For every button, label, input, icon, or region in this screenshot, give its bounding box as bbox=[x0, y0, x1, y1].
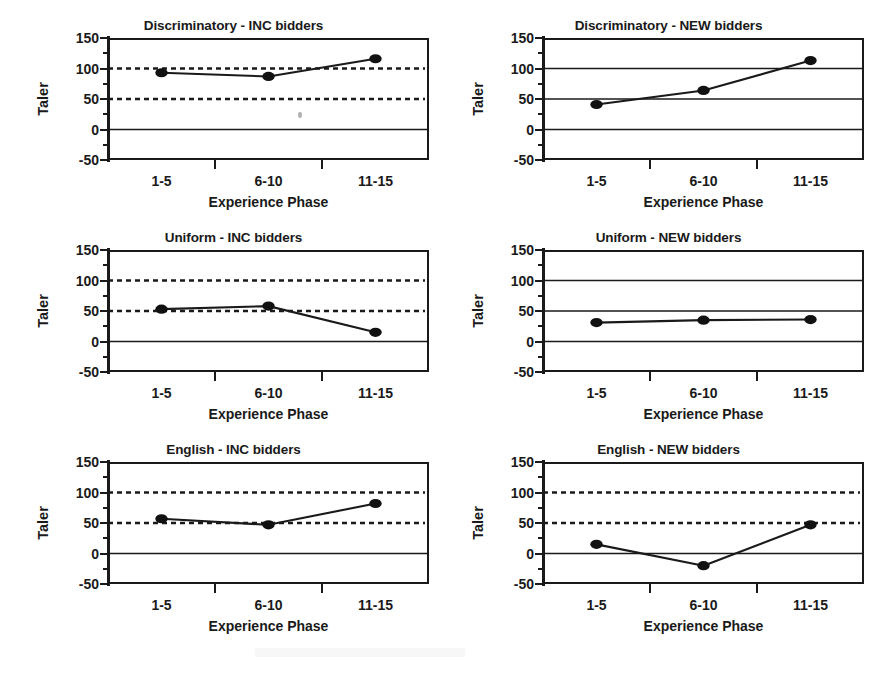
y-tick-mark bbox=[535, 98, 543, 100]
y-axis-label: Taler bbox=[470, 82, 486, 116]
x-tick-label: 6-10 bbox=[254, 173, 282, 189]
y-minor-tick-mark bbox=[103, 144, 108, 146]
chart-panel: Uniform - INC bidders150100500-50Taler1-… bbox=[16, 228, 451, 446]
y-minor-tick-mark bbox=[103, 52, 108, 54]
y-tick-label: 0 bbox=[526, 334, 534, 350]
y-tick-label: 50 bbox=[518, 91, 534, 107]
y-tick-label: 50 bbox=[83, 515, 99, 531]
x-tick-mark bbox=[214, 160, 216, 169]
y-tick-mark bbox=[100, 98, 108, 100]
y-minor-tick-mark bbox=[103, 507, 108, 509]
x-tick-mark bbox=[321, 160, 323, 169]
y-tick-mark bbox=[535, 280, 543, 282]
x-tick-mark bbox=[649, 160, 651, 169]
y-tick-label: 150 bbox=[76, 454, 99, 470]
x-tick-label: 1-5 bbox=[586, 597, 606, 613]
y-tick-mark bbox=[100, 310, 108, 312]
y-tick-label: 150 bbox=[76, 242, 99, 258]
y-axis-label: Taler bbox=[470, 506, 486, 540]
y-tick-label: 50 bbox=[518, 515, 534, 531]
plot-area: 150100500-50Taler1-56-1011-15Experience … bbox=[108, 38, 429, 160]
plot-area: 150100500-50Taler1-56-1011-15Experience … bbox=[543, 38, 864, 160]
y-minor-tick-mark bbox=[103, 325, 108, 327]
y-tick-mark bbox=[100, 159, 108, 161]
y-minor-tick-mark bbox=[538, 568, 543, 570]
y-tick-label: 0 bbox=[91, 334, 99, 350]
y-minor-tick-mark bbox=[103, 264, 108, 266]
y-tick-label: 150 bbox=[76, 30, 99, 46]
plot-canvas bbox=[543, 250, 864, 372]
x-tick-label: 1-5 bbox=[151, 173, 171, 189]
x-axis-label: Experience Phase bbox=[108, 194, 429, 210]
y-minor-tick-mark bbox=[103, 476, 108, 478]
plot-canvas bbox=[108, 462, 429, 584]
scan-speck bbox=[298, 112, 302, 118]
series-line bbox=[597, 525, 811, 566]
x-tick-label: 11-15 bbox=[793, 385, 828, 401]
y-tick-mark bbox=[100, 461, 108, 463]
y-tick-label: -50 bbox=[514, 364, 534, 380]
y-tick-mark bbox=[100, 522, 108, 524]
x-tick-label: 11-15 bbox=[793, 173, 828, 189]
data-point bbox=[804, 520, 816, 529]
y-minor-tick-mark bbox=[103, 356, 108, 358]
y-tick-label: -50 bbox=[79, 152, 99, 168]
data-point bbox=[262, 72, 274, 81]
y-tick-mark bbox=[535, 310, 543, 312]
data-point bbox=[804, 56, 816, 65]
y-tick-label: 100 bbox=[76, 273, 99, 289]
x-tick-mark bbox=[756, 584, 758, 593]
chart-panel: English - INC bidders150100500-50Taler1-… bbox=[16, 440, 451, 658]
x-tick-label: 11-15 bbox=[358, 173, 393, 189]
x-tick-label: 11-15 bbox=[793, 597, 828, 613]
x-axis-label: Experience Phase bbox=[543, 618, 864, 634]
x-axis-label: Experience Phase bbox=[543, 194, 864, 210]
y-tick-label: 0 bbox=[91, 122, 99, 138]
y-minor-tick-mark bbox=[103, 568, 108, 570]
plot-area: 150100500-50Taler1-56-1011-15Experience … bbox=[108, 250, 429, 372]
plot-area: 150100500-50Taler1-56-1011-15Experience … bbox=[543, 462, 864, 584]
x-tick-mark bbox=[214, 372, 216, 381]
y-tick-label: 100 bbox=[511, 61, 534, 77]
y-tick-label: -50 bbox=[79, 576, 99, 592]
data-point bbox=[369, 54, 381, 63]
y-minor-tick-mark bbox=[538, 52, 543, 54]
series-line bbox=[597, 61, 811, 105]
y-minor-tick-mark bbox=[538, 144, 543, 146]
y-minor-tick-mark bbox=[538, 295, 543, 297]
data-point bbox=[155, 68, 167, 77]
y-tick-mark bbox=[100, 280, 108, 282]
x-tick-label: 11-15 bbox=[358, 597, 393, 613]
y-axis-label: Taler bbox=[35, 82, 51, 116]
data-point bbox=[590, 100, 602, 109]
y-tick-mark bbox=[535, 129, 543, 131]
y-tick-mark bbox=[100, 68, 108, 70]
y-tick-mark bbox=[535, 68, 543, 70]
x-tick-label: 1-5 bbox=[151, 597, 171, 613]
y-tick-mark bbox=[535, 522, 543, 524]
y-minor-tick-mark bbox=[103, 113, 108, 115]
x-tick-mark bbox=[321, 372, 323, 381]
data-point bbox=[369, 499, 381, 508]
y-minor-tick-mark bbox=[103, 83, 108, 85]
data-point bbox=[697, 86, 709, 95]
x-tick-label: 6-10 bbox=[689, 597, 717, 613]
y-minor-tick-mark bbox=[538, 264, 543, 266]
x-tick-label: 6-10 bbox=[689, 173, 717, 189]
y-minor-tick-mark bbox=[538, 113, 543, 115]
plot-canvas bbox=[543, 462, 864, 584]
y-minor-tick-mark bbox=[103, 295, 108, 297]
y-axis-label: Taler bbox=[35, 294, 51, 328]
data-point bbox=[155, 305, 167, 314]
x-tick-mark bbox=[756, 372, 758, 381]
figure-panel-grid: Discriminatory - INC bidders150100500-50… bbox=[0, 0, 870, 673]
x-tick-label: 11-15 bbox=[358, 385, 393, 401]
chart-panel: Uniform - NEW bidders150100500-50Taler1-… bbox=[451, 228, 870, 446]
x-tick-mark bbox=[321, 584, 323, 593]
plot-area: 150100500-50Taler1-56-1011-15Experience … bbox=[543, 250, 864, 372]
data-point bbox=[804, 315, 816, 324]
data-point bbox=[590, 540, 602, 549]
y-tick-mark bbox=[100, 583, 108, 585]
y-tick-label: 100 bbox=[76, 61, 99, 77]
y-tick-label: -50 bbox=[514, 576, 534, 592]
